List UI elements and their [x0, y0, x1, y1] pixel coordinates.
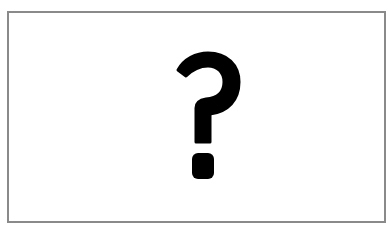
question-mark-icon — [172, 50, 242, 181]
